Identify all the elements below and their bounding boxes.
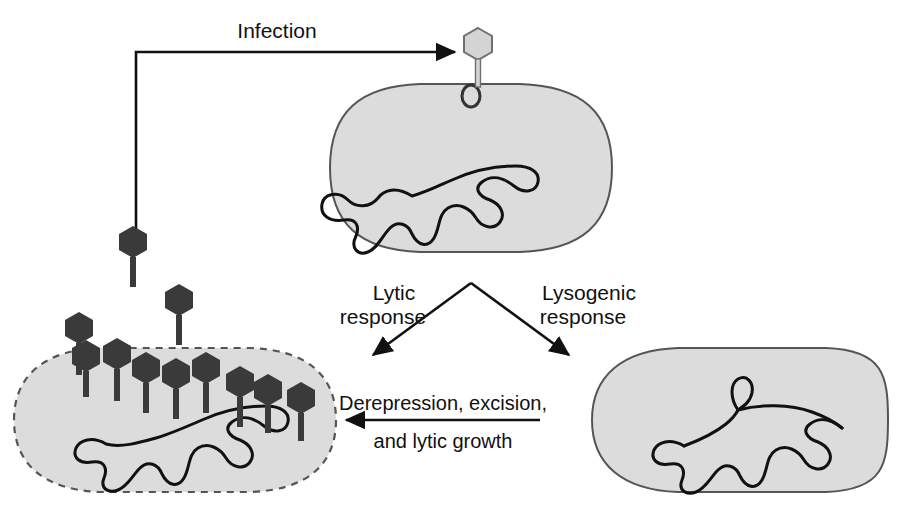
phage-tail-icon xyxy=(130,257,136,287)
lysogenic-label-line1: Lysogenic xyxy=(542,281,636,304)
lysogenic-cell-membrane xyxy=(592,348,888,492)
lytic-label-line2: response xyxy=(340,305,426,328)
phage-head-icon xyxy=(165,284,193,316)
infection-label: Infection xyxy=(237,19,316,42)
derepression-label-line1: Derepression, excision, xyxy=(339,392,547,414)
phage-tail-icon xyxy=(237,397,243,427)
free-phage xyxy=(464,28,492,87)
phage-head-icon xyxy=(464,28,492,60)
lysogenic-host-cell xyxy=(592,348,888,493)
phage-lifecycle-diagram: Infection Lytic response Lysogenic respo… xyxy=(0,0,902,524)
phage-tail-icon xyxy=(173,389,179,419)
phage-particle xyxy=(165,284,193,345)
lytic-label-line1: Lytic xyxy=(373,281,415,304)
phage-particle xyxy=(119,226,147,287)
phage-tail-icon xyxy=(298,413,304,441)
phage-tail-icon xyxy=(176,315,182,345)
infected-cell-membrane xyxy=(330,84,612,252)
derepression-label-line2: and lytic growth xyxy=(374,430,513,452)
phage-tail-icon xyxy=(203,383,209,413)
phage-head-icon xyxy=(65,312,93,344)
phage-tail-icon xyxy=(143,383,149,413)
infected-host-cell xyxy=(322,84,612,253)
phage-tail-icon xyxy=(476,59,481,87)
phage-tail-icon xyxy=(114,369,120,401)
lysogenic-label-line2: response xyxy=(540,305,626,328)
phage-tail-icon xyxy=(83,371,89,397)
phage-head-icon xyxy=(119,226,147,258)
diagram-canvas: Infection Lytic response Lysogenic respo… xyxy=(0,0,902,524)
phage-tail-icon xyxy=(265,405,271,433)
